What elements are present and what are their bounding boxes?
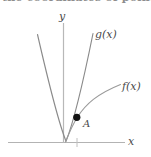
x-axis-label: x xyxy=(128,136,134,147)
curve-label-g: g(x) xyxy=(95,29,117,40)
y-axis-label: y xyxy=(59,11,65,22)
curve-f-sqrt xyxy=(66,85,121,143)
intersection-point-A-dot xyxy=(73,114,80,121)
point-label-a: A xyxy=(83,119,90,129)
function-graph-figure: the coordinates of point y x g(x) f(x) A xyxy=(0,0,151,157)
graph-canvas xyxy=(0,0,151,157)
curve-label-f: f(x) xyxy=(122,81,141,92)
